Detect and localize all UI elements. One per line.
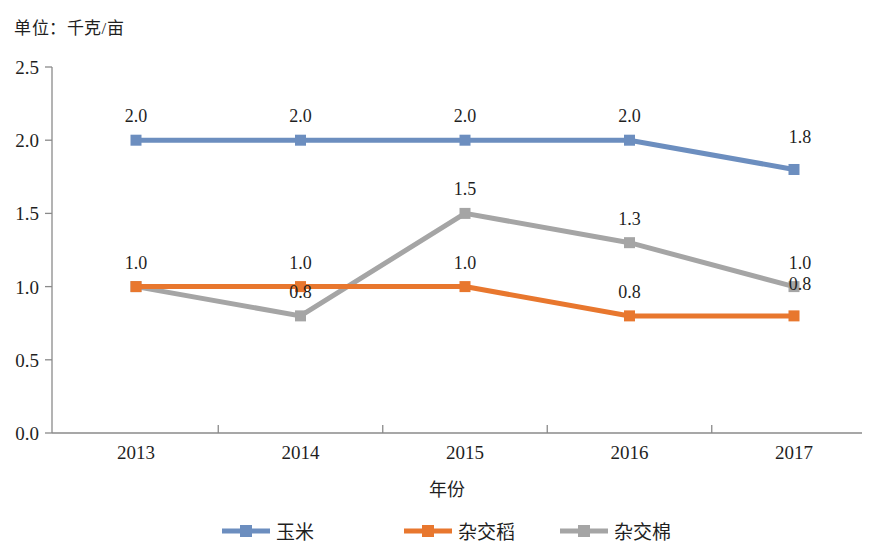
series-marker	[789, 310, 800, 321]
y-axis-tick-label: 1.5	[15, 203, 39, 224]
series-marker	[460, 281, 471, 292]
legend-item-label[interactable]: 玉米	[276, 522, 314, 543]
series-marker	[624, 135, 635, 146]
data-point-label: 0.8	[618, 282, 641, 302]
data-point-label: 1.0	[789, 253, 812, 273]
series-layer	[131, 135, 800, 322]
data-point-label: 0.8	[289, 282, 312, 302]
x-axis-tick-label: 2017	[775, 442, 813, 463]
legend-swatch-marker	[422, 525, 434, 537]
data-point-label: 1.3	[618, 209, 641, 229]
x-axis-tick-label: 2014	[282, 442, 321, 463]
x-axis-layer: 20132014201520162017年份	[52, 425, 862, 500]
legend-swatch-marker	[578, 525, 590, 537]
y-axis-tick-label: 0.5	[15, 350, 39, 371]
data-point-label: 1.8	[789, 127, 812, 147]
series-marker	[789, 164, 800, 175]
data-point-label: 0.8	[789, 274, 812, 294]
y-axis-tick-label: 1.0	[15, 277, 39, 298]
series-marker	[624, 237, 635, 248]
legend-item-label[interactable]: 杂交稻	[458, 522, 515, 543]
data-point-label: 2.0	[454, 106, 477, 126]
x-axis-title: 年份	[429, 480, 465, 500]
x-axis-tick-label: 2013	[117, 442, 155, 463]
data-point-label: 1.0	[289, 253, 312, 273]
x-axis-tick-label: 2015	[446, 442, 484, 463]
series-marker	[131, 135, 142, 146]
data-point-label: 2.0	[618, 106, 641, 126]
y-axis-tick-label: 0.0	[15, 423, 39, 444]
y-axis-tick-label: 2.5	[15, 57, 39, 78]
legend-swatch-marker	[240, 525, 252, 537]
data-point-label: 1.5	[454, 179, 477, 199]
data-point-label: 1.0	[125, 253, 148, 273]
line-chart-canvas: 0.00.51.01.52.02.5 2.02.02.02.01.81.01.0…	[0, 0, 875, 545]
y-axis-tick-label: 2.0	[15, 130, 39, 151]
data-point-label: 1.0	[454, 253, 477, 273]
data-point-label: 2.0	[125, 106, 148, 126]
series-marker	[131, 281, 142, 292]
series-marker	[460, 135, 471, 146]
series-marker	[295, 135, 306, 146]
chart-container: 单位：千克/亩 0.00.51.01.52.02.5 2.02.02.02.01…	[0, 0, 875, 545]
series-marker	[295, 310, 306, 321]
legend-item-label[interactable]: 杂交棉	[614, 522, 671, 543]
axis-layer: 0.00.51.01.52.02.5	[15, 57, 52, 444]
x-axis-tick-label: 2016	[611, 442, 649, 463]
series-marker	[624, 310, 635, 321]
chart-legend: 玉米杂交稻杂交棉	[222, 522, 671, 543]
series-marker	[460, 208, 471, 219]
data-point-label: 2.0	[289, 106, 312, 126]
